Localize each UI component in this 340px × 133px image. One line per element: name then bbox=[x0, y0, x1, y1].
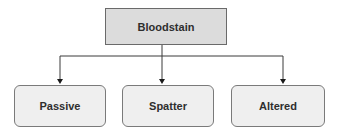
arrowhead-icon bbox=[280, 79, 286, 84]
child-node-passive: Passive bbox=[14, 85, 106, 127]
arrowhead-icon bbox=[159, 79, 165, 84]
child-node-altered: Altered bbox=[231, 85, 325, 127]
child-node-label: Altered bbox=[259, 100, 297, 112]
arrowhead-icon bbox=[57, 79, 63, 84]
root-node-bloodstain: Bloodstain bbox=[105, 8, 227, 45]
child-node-label: Spatter bbox=[149, 100, 187, 112]
bloodstain-hierarchy-diagram: Bloodstain Passive Spatter Altered bbox=[0, 0, 340, 133]
root-node-label: Bloodstain bbox=[138, 21, 195, 33]
child-node-label: Passive bbox=[40, 100, 81, 112]
child-node-spatter: Spatter bbox=[122, 85, 214, 127]
